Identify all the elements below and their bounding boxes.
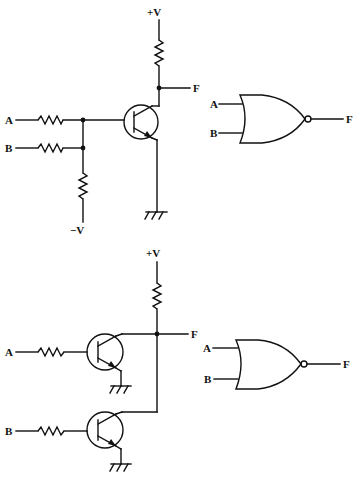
top-input-a-resistor — [38, 116, 63, 124]
bottom-input-a-label: A — [5, 346, 13, 358]
top-collector-resistor — [155, 40, 163, 66]
bottom-transistor-a — [87, 334, 123, 386]
bottom-gate-input-a-label: A — [203, 342, 211, 354]
top-gate-input-a-label: A — [210, 98, 218, 110]
bottom-gate-input-b-label: B — [204, 373, 212, 385]
top-input-b-label: B — [5, 142, 13, 154]
diagram-canvas: +V F A B — [0, 0, 359, 478]
bottom-supply-label: +V — [146, 247, 160, 259]
top-supply-label: +V — [147, 6, 161, 18]
bottom-input-a-resistor — [38, 348, 64, 356]
top-input-b-resistor — [38, 144, 63, 152]
top-bias-resistor — [79, 173, 87, 199]
bottom-circuit: +V F A — [5, 247, 198, 471]
top-gate-inverter-bubble — [305, 116, 311, 122]
top-circuit: +V F A B — [5, 6, 200, 236]
bottom-output-label: F — [191, 328, 198, 340]
bottom-ground-b-icon — [110, 464, 131, 471]
top-ground-icon — [145, 212, 167, 219]
bottom-gate-output-label: F — [343, 358, 350, 370]
top-gate-input-b-label: B — [210, 127, 218, 139]
top-gate-output-label: F — [346, 113, 353, 125]
top-nor-gate: A B F — [210, 95, 353, 143]
bottom-nor-gate: A B F — [203, 340, 350, 389]
bottom-input-b-resistor — [38, 427, 64, 435]
top-neg-supply-label: −V — [70, 224, 84, 236]
bottom-input-b-label: B — [5, 425, 13, 437]
bottom-ground-a-icon — [110, 386, 131, 393]
bottom-gate-inverter-bubble — [301, 361, 307, 367]
bottom-collector-resistor — [153, 283, 161, 309]
top-input-a-label: A — [5, 114, 13, 126]
top-output-label: F — [193, 82, 200, 94]
bottom-transistor-b — [87, 412, 123, 464]
top-transistor — [124, 105, 159, 140]
